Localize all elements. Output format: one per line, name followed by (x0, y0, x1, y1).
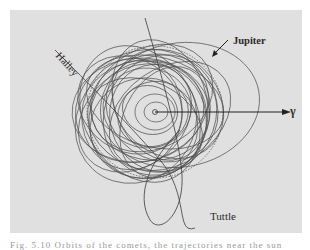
vernal-equinox-label: γ (290, 104, 296, 119)
orbit-diagram-panel: Halley Jupiter Tuttle (10, 10, 302, 233)
tuttle-label: Tuttle (210, 210, 236, 222)
figure-caption: Fig. 5.10 Orbits of the comets, the traj… (10, 240, 302, 250)
jupiter-label: Jupiter (233, 35, 266, 46)
comet-orbits (50, 23, 269, 209)
